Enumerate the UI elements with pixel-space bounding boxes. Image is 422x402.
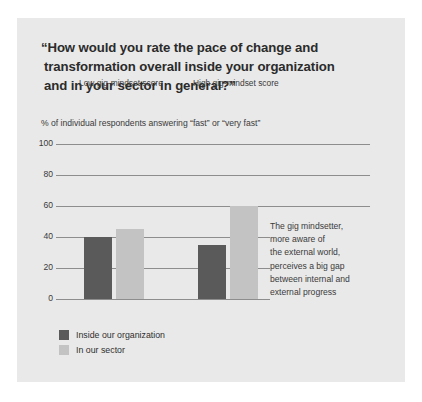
annotation-line-4: perceives a big gap [270, 260, 400, 273]
bar-high-organization [198, 245, 226, 299]
legend-label: In our sector [76, 345, 125, 355]
annotation-line-3: the external world, [270, 246, 400, 259]
annotation-callout: The gig mindsetter, more aware of the ex… [270, 220, 400, 299]
y-tick-20: 20 [17, 263, 53, 273]
y-tick-40: 40 [17, 232, 53, 242]
y-tick-label-0: 0 [19, 294, 53, 303]
bar-low-sector [116, 229, 144, 299]
group-label-low: Low gig-mindset score [79, 78, 163, 88]
chart-panel: “How would you rate the pace of change a… [17, 18, 405, 382]
bar-low-organization [84, 237, 112, 299]
legend-item-sector[interactable]: In our sector [59, 345, 165, 355]
group-label-high: High gig-mindset score [193, 78, 279, 88]
y-tick-60: 60 [17, 201, 53, 211]
plot-area: 020406080100 Low gig-mindset score High … [17, 18, 405, 382]
bar-high-sector [230, 206, 258, 299]
legend-swatch-icon [59, 330, 69, 340]
legend-label: Inside our organization [76, 330, 165, 340]
annotation-line-2: more aware of [270, 233, 400, 246]
chart-legend: Inside our organizationIn our sector [59, 330, 165, 360]
annotation-line-5: between internal and [270, 273, 400, 286]
gridline-0 [56, 299, 270, 300]
legend-item-organization[interactable]: Inside our organization [59, 330, 165, 340]
annotation-line-6: external progress [270, 286, 400, 299]
y-tick-100: 100 [17, 139, 53, 149]
legend-swatch-icon [59, 345, 69, 355]
y-tick-label-60: 60 [19, 201, 53, 210]
y-tick-label-20: 20 [19, 263, 53, 272]
y-tick-80: 80 [17, 170, 53, 180]
y-tick-label-100: 100 [19, 139, 53, 148]
annotation-line-1: The gig mindsetter, [270, 220, 400, 233]
y-tick-label-40: 40 [19, 232, 53, 241]
y-tick-0: 0 [17, 294, 53, 304]
y-tick-label-80: 80 [19, 170, 53, 179]
